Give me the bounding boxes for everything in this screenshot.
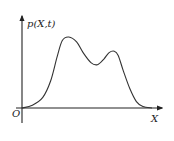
origin-label: O xyxy=(12,108,20,119)
density-chart: p(X,t) X O xyxy=(0,0,174,141)
density-curve xyxy=(22,37,152,108)
y-axis-label: p(X,t) xyxy=(27,18,56,29)
x-axis-label: X xyxy=(150,113,159,124)
